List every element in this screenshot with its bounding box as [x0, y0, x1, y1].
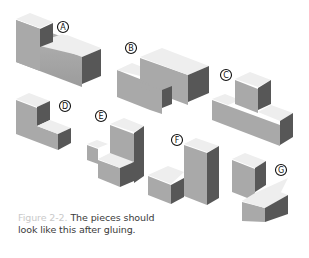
piece-e: [87, 118, 144, 187]
piece-c: [212, 72, 293, 146]
caption-text-line2: look like this after gluing.: [18, 224, 136, 235]
caption-text-line1: The pieces should: [70, 212, 154, 223]
label-a-text: A: [60, 23, 66, 32]
figure-number: Figure 2-2.: [18, 212, 67, 223]
piece-f: [148, 138, 219, 205]
label-f: F: [172, 135, 183, 146]
label-d-text: D: [62, 102, 68, 111]
label-c-text: C: [223, 71, 229, 80]
label-a: A: [58, 22, 69, 33]
label-c: C: [221, 70, 232, 81]
piece-b: [117, 48, 209, 114]
label-g-text: G: [278, 166, 284, 175]
label-b-text: B: [128, 44, 134, 53]
label-g: G: [276, 165, 287, 176]
label-e-text: E: [98, 112, 103, 121]
label-e: E: [96, 111, 107, 122]
label-b: B: [126, 43, 137, 54]
label-d: D: [60, 101, 71, 112]
figure-caption: Figure 2-2. The pieces should look like …: [18, 212, 218, 236]
label-f-text: F: [175, 136, 180, 145]
piece-g: [232, 153, 288, 222]
